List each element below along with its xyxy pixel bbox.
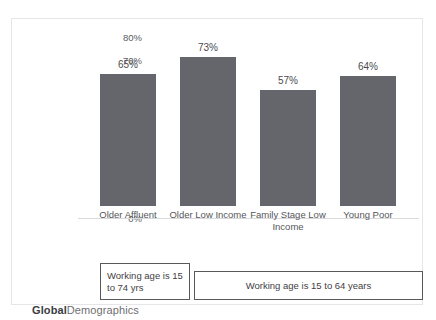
annotation-text: Working age is 15 to 74 yrs (107, 270, 183, 294)
bar-group: 57% (248, 31, 328, 206)
x-axis-category-label: Older Low Income (164, 209, 252, 221)
bar (340, 76, 396, 206)
bar (180, 57, 236, 206)
bar-group: 65% (88, 31, 168, 206)
bar (100, 74, 156, 206)
brand-logo: GlobalDemographics (32, 304, 139, 316)
annotation-box-other-segments: Working age is 15 to 64 years (194, 271, 423, 300)
bar-value-label: 65% (88, 59, 168, 70)
bar-group: 73% (168, 31, 248, 206)
bar-series: 65%73%57%64% (88, 31, 433, 206)
x-axis-category-label: Older Affluent (84, 209, 172, 221)
annotation-box-older-affluent: Working age is 15 to 74 yrs (100, 263, 190, 300)
annotation-text: Working age is 15 to 64 years (246, 280, 372, 292)
chart-frame: Percent of Working Age Population that i… (11, 18, 423, 305)
x-axis-category-label: Family Stage Low Income (244, 209, 332, 232)
x-axis-category-label: Young Poor (324, 209, 412, 221)
bar-group: 64% (328, 31, 408, 206)
brand-name-primary: Global (32, 304, 67, 316)
bar-value-label: 57% (248, 75, 328, 86)
bar-value-label: 73% (168, 42, 248, 53)
bar (260, 90, 316, 206)
bar-value-label: 64% (328, 61, 408, 72)
brand-name-secondary: Demographics (67, 304, 139, 316)
